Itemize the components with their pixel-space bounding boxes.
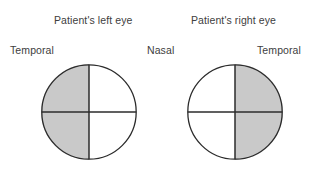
label-temporal-left: Temporal (10, 44, 54, 56)
visual-field-right-eye (187, 64, 283, 160)
visual-field-left-eye (41, 64, 137, 160)
label-temporal-right: Temporal (257, 44, 301, 56)
title-right-eye: Patient's right eye (191, 14, 276, 26)
label-nasal-center: Nasal (147, 44, 174, 56)
visual-field-diagram: Patient's left eye Patient's right eye T… (0, 0, 320, 171)
title-left-eye: Patient's left eye (54, 14, 133, 26)
